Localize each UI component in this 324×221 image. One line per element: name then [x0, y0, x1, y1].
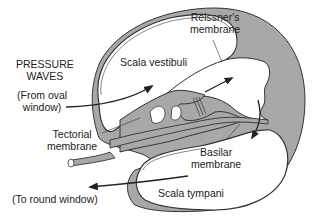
label-window: window) [17, 101, 67, 113]
label-basilar-membrane: Basilar membrane [191, 146, 241, 170]
cochlea-diagram: PRESSURE WAVES (From oval window) Reissn… [0, 0, 324, 221]
label-scala-tympani: Scala tympani [158, 187, 224, 199]
label-tectorial-membrane: Tectorial membrane [47, 128, 97, 152]
label-to-round-window: (To round window) [12, 193, 98, 205]
label-reissners: Reissner's [190, 11, 240, 23]
label-tectorial-membrane-word: membrane [47, 140, 97, 152]
label-from-oval-window: (From oval window) [17, 89, 67, 113]
cochlear-nerve [70, 152, 115, 166]
label-waves: WAVES [16, 70, 74, 82]
label-basilar: Basilar [191, 146, 241, 158]
label-reissners-membrane-word: membrane [190, 23, 240, 35]
label-from-oval: (From oval [17, 89, 67, 101]
label-pressure-waves: PRESSURE WAVES [16, 58, 74, 82]
label-reissners-membrane: Reissner's membrane [190, 11, 240, 35]
label-basilar-membrane-word: membrane [191, 158, 241, 170]
label-scala-vestibuli: Scala vestibuli [120, 56, 187, 68]
label-tectorial: Tectorial [47, 128, 97, 140]
label-pressure: PRESSURE [16, 58, 74, 70]
